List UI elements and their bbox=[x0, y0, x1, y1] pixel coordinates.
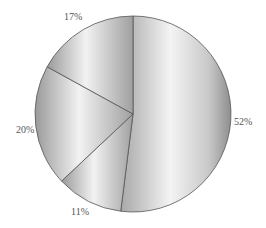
pie-chart bbox=[0, 0, 266, 228]
slice-label-52: 52% bbox=[234, 116, 252, 127]
pie-slice-52pct bbox=[121, 16, 231, 212]
slice-label-17: 17% bbox=[64, 11, 82, 22]
slice-label-20: 20% bbox=[16, 124, 34, 135]
pie-slices bbox=[35, 16, 231, 212]
slice-label-11: 11% bbox=[71, 206, 89, 217]
